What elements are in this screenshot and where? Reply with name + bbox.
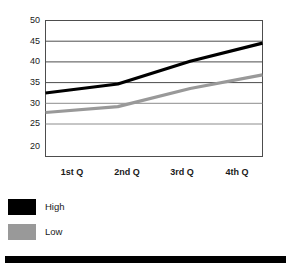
x-tick-label: 3rd Q bbox=[170, 167, 194, 177]
x-tick-label: 1st Q bbox=[61, 167, 84, 177]
x-tick-label: 2nd Q bbox=[114, 167, 140, 177]
x-tick-label: 4th Q bbox=[225, 167, 248, 177]
y-tick-label: 50 bbox=[30, 15, 40, 25]
line-chart-figure: 50 45 40 35 30 25 20 1st Q 2nd Q 3rd Q 4… bbox=[0, 0, 291, 265]
footer-bar bbox=[5, 256, 286, 263]
y-tick-label: 20 bbox=[30, 141, 40, 151]
legend-label-low: Low bbox=[45, 224, 62, 240]
y-tick-label: 45 bbox=[30, 36, 40, 46]
y-tick-label: 30 bbox=[30, 98, 40, 108]
legend-swatch-high bbox=[8, 199, 36, 215]
legend-label-high: High bbox=[45, 199, 65, 215]
y-axis-ticks: 50 45 40 35 30 25 20 bbox=[30, 15, 40, 151]
x-axis-ticks: 1st Q 2nd Q 3rd Q 4th Q bbox=[61, 167, 249, 177]
y-tick-label: 25 bbox=[30, 118, 40, 128]
y-tick-label: 35 bbox=[30, 77, 40, 87]
chart-canvas: 50 45 40 35 30 25 20 1st Q 2nd Q 3rd Q 4… bbox=[0, 0, 291, 265]
y-tick-label: 40 bbox=[30, 56, 40, 66]
legend-swatch-low bbox=[8, 224, 36, 240]
